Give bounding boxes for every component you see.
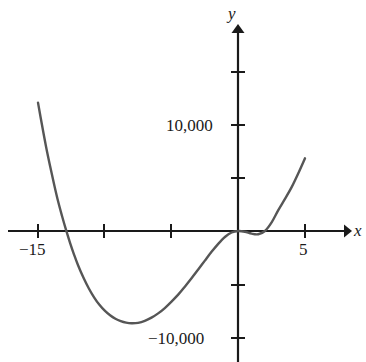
y-tick-label-negative: −10,000	[148, 330, 204, 347]
plot-canvas	[0, 0, 366, 362]
x-tick-label-negative: −15	[19, 241, 46, 258]
graph-figure: 10,000 −10,000 −15 5 x y	[0, 0, 366, 362]
curve-path	[38, 103, 305, 324]
y-axis-name: y	[228, 5, 236, 22]
y-tick-label-positive: 10,000	[166, 117, 213, 134]
x-tick-label-positive: 5	[299, 241, 308, 258]
x-axis-name: x	[354, 222, 362, 239]
y-axis	[232, 24, 245, 362]
x-axis	[8, 225, 352, 238]
